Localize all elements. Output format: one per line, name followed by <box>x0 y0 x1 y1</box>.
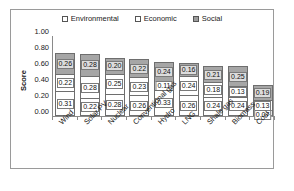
legend-item-environmental[interactable]: Environmental <box>62 15 119 23</box>
bar-segment[interactable]: 0.28 <box>80 76 100 98</box>
bar-segment[interactable]: 0.23 <box>129 77 149 95</box>
bar-segment[interactable]: 0.24 <box>179 76 199 95</box>
bar-segment[interactable]: 0.21 <box>203 66 223 83</box>
bar-segment[interactable]: 0.16 <box>179 63 199 76</box>
figure-caption <box>22 178 262 188</box>
bar-column[interactable]: 0.160.240.26 <box>179 36 199 116</box>
bar-value-label: 0.28 <box>81 83 99 93</box>
bar-value-label: 0.26 <box>57 59 75 69</box>
legend-item-economic[interactable]: Economic <box>135 15 177 23</box>
legend-swatch-environmental-icon <box>62 16 68 22</box>
bar-segment[interactable]: 0.19 <box>253 85 273 100</box>
bar-segment[interactable]: 0.13 <box>228 86 248 96</box>
bar-value-label: 0.18 <box>204 85 222 95</box>
y-tick-label: 0.20 <box>34 92 49 100</box>
bar-value-label: 0.21 <box>204 70 222 80</box>
legend-item-social[interactable]: Social <box>193 15 222 23</box>
bar-value-label: 0.23 <box>130 82 148 92</box>
bar-value-label: 0.24 <box>180 81 198 91</box>
bar-value-label: 0.16 <box>180 65 198 75</box>
chart-legend: Environmental Economic Social <box>11 15 273 23</box>
y-tick-label: 0.80 <box>34 44 49 52</box>
bar-segment[interactable]: 0.20 <box>105 58 125 74</box>
y-tick-label: 1.00 <box>34 28 49 36</box>
x-axis-category-labels: WindSolar PVNuclearConventional gasHydro… <box>52 120 274 176</box>
bar-segment[interactable]: 0.22 <box>129 59 149 77</box>
legend-label-environmental: Environmental <box>71 15 119 23</box>
legend-swatch-economic-icon <box>135 16 141 22</box>
bar-value-label: 0.25 <box>106 79 124 89</box>
bar-segment[interactable]: 0.25 <box>105 74 125 94</box>
bar-value-label: 0.22 <box>130 64 148 74</box>
chart-frame: Environmental Economic Social Score 1.00… <box>10 9 274 169</box>
bar-value-label: 0.25 <box>229 72 247 82</box>
y-tick-label: 0.60 <box>34 60 49 68</box>
bar-value-label: 0.20 <box>106 61 124 71</box>
bar-value-label: 0.22 <box>57 78 75 88</box>
bar-value-label: 0.19 <box>254 88 272 98</box>
plot-area: 0.260.220.310.280.280.220.200.250.280.22… <box>52 36 275 117</box>
x-tick-mark <box>274 116 275 120</box>
bar-segment[interactable]: 0.25 <box>228 66 248 86</box>
bar-value-label: 0.26 <box>180 101 198 111</box>
bar-value-label: 0.13 <box>229 87 247 97</box>
y-axis-tick-labels: 1.000.800.600.400.200.00 <box>23 32 49 116</box>
bar-column[interactable]: 0.260.220.31 <box>55 36 75 116</box>
bar-value-label: 0.31 <box>57 99 75 109</box>
legend-label-social: Social <box>202 15 222 23</box>
bar-segment[interactable]: 0.26 <box>55 53 75 74</box>
bar-segment[interactable]: 0.28 <box>80 54 100 76</box>
y-tick-label: 0.00 <box>34 108 49 116</box>
bar-value-label: 0.28 <box>81 60 99 70</box>
legend-label-economic: Economic <box>144 15 177 23</box>
bar-segment[interactable]: 0.18 <box>203 82 223 96</box>
bar-value-label: 0.24 <box>155 67 173 77</box>
bar-group: 0.260.220.310.280.280.220.200.250.280.22… <box>53 36 275 116</box>
y-tick-label: 0.40 <box>34 76 49 84</box>
bar-segment[interactable]: 0.24 <box>154 62 174 81</box>
legend-swatch-social-icon <box>193 16 199 22</box>
bar-segment[interactable]: 0.22 <box>55 74 75 92</box>
